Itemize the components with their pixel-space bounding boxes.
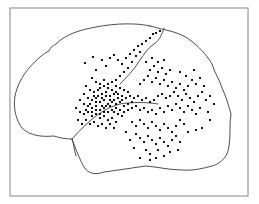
data-point	[151, 57, 153, 59]
data-point	[149, 101, 151, 103]
data-point	[147, 75, 149, 77]
data-point	[119, 101, 121, 103]
data-point	[139, 109, 141, 111]
data-point	[129, 95, 131, 97]
data-point	[195, 129, 197, 131]
data-point	[84, 62, 86, 64]
data-point	[79, 99, 81, 101]
data-point	[167, 105, 169, 107]
data-point	[101, 97, 103, 99]
data-point	[85, 119, 87, 121]
data-point	[119, 87, 121, 89]
data-point	[121, 95, 123, 97]
data-point	[125, 57, 127, 59]
data-point	[101, 105, 103, 107]
data-point	[103, 107, 105, 109]
data-point	[133, 147, 135, 149]
data-point	[103, 115, 105, 117]
data-point	[107, 83, 109, 85]
data-point	[163, 59, 165, 61]
data-point	[93, 91, 95, 93]
data-point	[91, 107, 93, 109]
data-point	[175, 135, 177, 137]
data-point	[113, 54, 115, 56]
data-point	[183, 89, 185, 91]
data-point	[121, 63, 123, 65]
data-point	[111, 89, 113, 91]
data-point	[75, 107, 77, 109]
data-point	[139, 119, 141, 121]
data-point	[179, 71, 181, 73]
data-point	[103, 111, 105, 113]
data-point	[115, 91, 117, 93]
data-point	[149, 159, 151, 161]
data-point	[117, 93, 119, 95]
data-point	[81, 123, 83, 125]
data-point	[79, 111, 81, 113]
data-point	[153, 65, 155, 67]
data-point	[133, 49, 135, 51]
data-point	[91, 111, 93, 113]
data-point	[199, 107, 201, 109]
data-point	[115, 85, 117, 87]
data-point	[151, 121, 153, 123]
data-point	[117, 97, 119, 99]
data-point	[179, 83, 181, 85]
data-point	[197, 95, 199, 97]
data-point	[203, 85, 205, 87]
data-point	[187, 85, 189, 87]
data-point	[95, 113, 97, 115]
data-point	[163, 123, 165, 125]
data-point	[171, 81, 173, 83]
data-point	[129, 53, 131, 55]
data-point	[185, 93, 187, 95]
data-point	[153, 99, 155, 101]
data-point	[111, 117, 113, 119]
data-point	[179, 119, 181, 121]
data-point	[109, 57, 111, 59]
data-point	[155, 125, 157, 127]
data-point	[97, 125, 99, 127]
data-point	[205, 99, 207, 101]
data-point	[177, 149, 179, 151]
data-point	[139, 137, 141, 139]
data-point	[149, 69, 151, 71]
data-point	[155, 157, 157, 159]
data-point	[127, 67, 129, 69]
data-point	[99, 113, 101, 115]
data-point	[177, 95, 179, 97]
data-point	[95, 81, 97, 83]
data-point	[83, 103, 85, 105]
data-point	[171, 139, 173, 141]
data-point	[115, 107, 117, 109]
data-point	[93, 95, 95, 97]
data-point	[113, 111, 115, 113]
data-point	[145, 40, 147, 42]
data-point	[193, 101, 195, 103]
figure-frame	[10, 8, 248, 196]
data-point	[99, 109, 101, 111]
data-point	[107, 103, 109, 105]
data-point	[97, 95, 99, 97]
data-point	[109, 123, 111, 125]
data-point	[92, 56, 94, 58]
data-point	[125, 97, 127, 99]
data-point	[159, 137, 161, 139]
data-point	[145, 61, 147, 63]
data-point	[95, 97, 97, 99]
data-point	[143, 107, 145, 109]
data-point	[165, 97, 167, 99]
data-point	[169, 151, 171, 153]
data-point	[105, 65, 107, 67]
data-point	[89, 123, 91, 125]
data-point	[83, 113, 85, 115]
data-point	[163, 141, 165, 143]
data-point	[101, 93, 103, 95]
data-point	[175, 125, 177, 127]
data-point	[91, 99, 93, 101]
data-point	[143, 123, 145, 125]
data-point	[181, 99, 183, 101]
data-point	[115, 79, 117, 81]
data-point	[155, 32, 157, 34]
data-point	[147, 135, 149, 137]
